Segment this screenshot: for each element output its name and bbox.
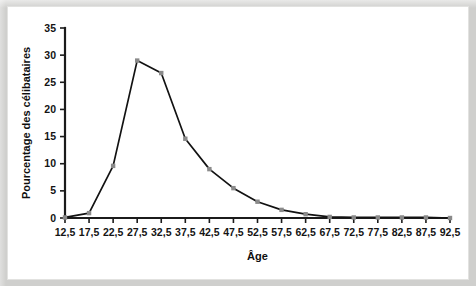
data-point-marker (303, 212, 307, 216)
data-point-marker (63, 215, 67, 219)
data-point-marker (87, 211, 91, 215)
data-series (63, 58, 452, 220)
data-point-marker (327, 215, 331, 219)
data-point-marker (352, 215, 356, 219)
data-point-marker (400, 215, 404, 219)
data-point-marker (376, 215, 380, 219)
x-tick-label: 47,5 (223, 226, 244, 238)
y-axis-title: Pourcentage des célibataires (20, 47, 32, 199)
chart-card: 05101520253035 12,517,522,527,532,537,54… (8, 7, 468, 279)
x-tick-label: 72,5 (344, 226, 365, 238)
y-tick-label: 5 (50, 184, 56, 196)
series-line-path (65, 61, 450, 218)
y-tick-label: 20 (44, 103, 56, 115)
x-tick-label: 62,5 (295, 226, 316, 238)
x-tick-label: 77,5 (368, 226, 389, 238)
x-tick-label: 92,5 (440, 226, 461, 238)
data-point-marker (135, 58, 139, 62)
x-tick-label: 82,5 (392, 226, 413, 238)
data-point-marker (159, 71, 163, 75)
y-tick-label: 0 (50, 212, 56, 224)
data-point-marker (183, 137, 187, 141)
x-axis: 12,517,522,527,532,537,542,547,552,557,5… (55, 218, 461, 238)
x-tick-label: 22,5 (103, 226, 124, 238)
x-tick-label: 87,5 (416, 226, 437, 238)
data-point-marker (111, 164, 115, 168)
x-tick-label: 42,5 (199, 226, 220, 238)
chart-plot-area: 05101520253035 12,517,522,527,532,537,54… (8, 7, 468, 279)
screenshot-root: 05101520253035 12,517,522,527,532,537,54… (0, 0, 476, 286)
data-point-marker (231, 186, 235, 190)
data-point-marker (424, 215, 428, 219)
y-tick-label: 35 (44, 22, 56, 34)
x-tick-label: 37,5 (175, 226, 196, 238)
y-axis: 05101520253035 (44, 22, 65, 224)
y-tick-label: 10 (44, 157, 56, 169)
series-marker-group (63, 58, 452, 220)
data-point-marker (279, 208, 283, 212)
line-chart: 05101520253035 12,517,522,527,532,537,54… (8, 7, 468, 279)
x-tick-label: 52,5 (247, 226, 268, 238)
x-tick-label: 32,5 (151, 226, 172, 238)
x-tick-group: 12,517,522,527,532,537,542,547,552,557,5… (55, 218, 461, 238)
y-tick-group: 05101520253035 (44, 22, 65, 224)
x-tick-label: 67,5 (319, 226, 340, 238)
y-tick-label: 25 (44, 76, 56, 88)
x-tick-label: 27,5 (127, 226, 148, 238)
data-point-marker (448, 216, 452, 220)
x-axis-title: Âge (247, 250, 268, 262)
y-tick-label: 30 (44, 49, 56, 61)
x-tick-label: 17,5 (79, 226, 100, 238)
x-tick-label: 57,5 (271, 226, 292, 238)
data-point-marker (255, 200, 259, 204)
y-tick-label: 15 (44, 130, 56, 142)
data-point-marker (207, 167, 211, 171)
x-tick-label: 12,5 (55, 226, 76, 238)
